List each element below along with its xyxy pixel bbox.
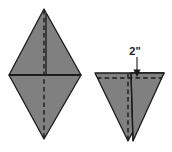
triangle-flap — [131, 73, 164, 141]
paper-folding-diagram: 2" — [0, 0, 172, 152]
rhombus-figure — [9, 9, 81, 139]
measurement-annotation: 2" — [129, 45, 140, 77]
triangle-figure — [95, 73, 164, 141]
measurement-label: 2" — [129, 45, 140, 57]
rhombus-lower-triangle — [9, 75, 81, 139]
diagram-canvas: 2" — [0, 0, 172, 152]
rhombus-upper-triangle — [9, 9, 81, 75]
